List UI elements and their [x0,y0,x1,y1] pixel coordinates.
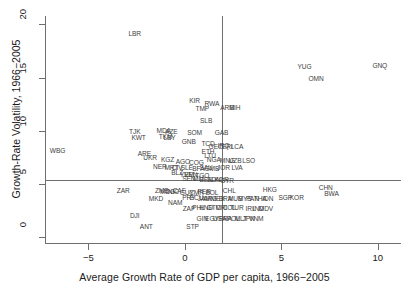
data-point-label: LBY [163,133,175,140]
y-tick-mark [39,78,45,79]
data-point-label: DJI [130,212,140,219]
data-point-label: MDV [259,204,273,211]
data-point-label: VNM [249,214,263,221]
data-point-label: BIH [230,104,241,111]
data-point-label: NAM [168,198,182,205]
data-point-label: YUG [298,62,312,69]
data-point-label: LSO [242,157,255,164]
data-point-label: ANT [140,223,153,230]
data-point-label: LBR [128,29,141,36]
x-tick-mark [185,244,186,250]
data-point-label: TUR [230,203,243,210]
x-tick-mark [88,244,89,250]
data-point-label: GNB [182,138,196,145]
data-point-label: UKR [143,154,157,161]
x-tick-label: 10 [358,252,398,263]
data-point-label: LCA [231,143,244,150]
data-point-label: SLB [200,116,212,123]
data-point-label: KWT [131,133,145,140]
y-tick-mark [39,131,45,132]
x-tick-mark [378,244,379,250]
x-tick-label: 5 [261,252,301,263]
x-axis-line [45,243,401,244]
y-axis-label: Growth-Rate Volatility, 1966−2005 [9,0,23,239]
data-point-label: GNQ [372,61,387,68]
data-point-label: CHL [223,186,236,193]
data-point-label: STP [186,223,199,230]
plot-area: LBRGNQYUGOMNKIRRWAARMBIHTMPSLBMDAAZESOMG… [46,16,401,243]
data-point-label: OMN [309,74,324,81]
y-tick-mark [39,184,45,185]
data-point-label: GAB [215,128,229,135]
x-tick-label: −5 [68,252,108,263]
scatter-plot-figure: 05101520 −50510 LBRGNQYUGOMNKIRRWAARMBIH… [0,0,409,298]
data-point-label: LVA [231,163,242,170]
data-point-label: KOR [290,194,304,201]
x-tick-label: 0 [165,252,205,263]
data-point-label: HKG [263,185,277,192]
data-point-label: SYR [221,177,234,184]
data-point-label: KIR [189,96,200,103]
data-point-label: IDN [262,195,273,202]
data-point-label: WBG [50,146,65,153]
data-point-label: ZAR [117,186,130,193]
y-axis-label-wrap: Growth-Rate Volatility, 1966−2005 [0,112,136,126]
data-point-label: JOR [217,163,230,170]
x-tick-mark [281,244,282,250]
data-point-label: NGA [207,156,221,163]
y-tick-mark [39,237,45,238]
data-point-label: SOM [187,128,202,135]
y-tick-mark [39,24,45,25]
data-point-label: BWA [324,190,338,197]
data-point-label: TMP [195,105,209,112]
x-axis-label: Average Growth Rate of GDP per capita, 1… [0,271,409,283]
data-point-label: MKD [149,195,163,202]
